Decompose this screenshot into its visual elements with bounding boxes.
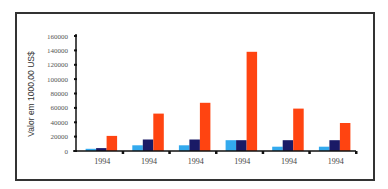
y-tick-mark [74,78,77,80]
axes-group [73,34,356,152]
bar-series3-cat1 [107,136,118,151]
bar-series3-cat5 [293,109,304,151]
y-tick-label: 80000 [51,90,69,98]
x-tick-mark [215,151,218,154]
bar-series2-cat2 [143,140,154,152]
bar-series1-cat4 [226,140,237,151]
bar-chart: 0200004000060000800001000001200001400001… [0,0,388,189]
y-tick-mark [74,136,77,138]
y-tick-label: 0 [65,148,69,156]
bar-series3-cat3 [200,103,211,151]
bar-series2-cat3 [189,140,200,152]
x-category-label: 1994 [141,157,157,166]
bar-series2-cat6 [329,140,340,151]
y-ticks-group: 0200004000060000800001000001200001400001… [47,33,77,156]
bar-series2-cat4 [236,140,247,151]
y-tick-mark [74,93,77,95]
bar-series1-cat2 [132,145,143,151]
x-category-label: 1994 [328,157,344,166]
y-tick-label: 160000 [47,33,69,41]
x-tick-mark [122,151,125,154]
y-tick-label: 100000 [47,76,69,84]
y-tick-mark [74,64,77,66]
y-tick-label: 40000 [51,119,69,127]
bar-series3-cat6 [340,123,351,151]
x-tick-mark [308,151,311,154]
bar-series3-cat4 [247,52,258,151]
y-tick-mark [74,121,77,123]
y-tick-mark [74,49,77,51]
y-tick-mark [74,150,77,152]
y-tick-mark [74,35,77,37]
bar-series2-cat5 [283,140,294,151]
y-tick-label: 140000 [47,47,69,55]
y-tick-mark [74,107,77,109]
x-category-label: 1994 [188,157,204,166]
x-tick-mark [262,151,265,154]
y-axis-label: Valor em 1000,00 US$ [26,51,36,137]
bar-series1-cat3 [179,145,190,151]
x-tick-mark [355,151,358,154]
x-tick-mark [168,151,171,154]
bars-group [86,52,351,151]
y-tick-label: 120000 [47,61,69,69]
x-category-label: 1994 [281,157,297,166]
x-category-label: 1994 [234,157,250,166]
y-tick-label: 60000 [51,104,69,112]
y-tick-label: 20000 [51,133,69,141]
x-category-label: 1994 [94,157,110,166]
bar-series3-cat2 [153,114,164,151]
x-ticks-group: 199419941994199419941994 [94,151,357,166]
